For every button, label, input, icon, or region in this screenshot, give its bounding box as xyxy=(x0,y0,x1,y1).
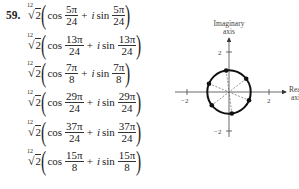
y-tick-neg: −2 xyxy=(214,128,222,136)
root-point xyxy=(207,81,212,86)
root-point xyxy=(247,98,252,103)
y-axis-label-2: axis xyxy=(223,27,235,36)
complex-plane-graph: −2 2 2 −2 Imaginary axis Real axis xyxy=(0,0,299,189)
root-point xyxy=(230,111,235,116)
root-point xyxy=(244,76,249,81)
root-point xyxy=(224,68,229,73)
root-point xyxy=(209,103,214,108)
x-tick-pos: 2 xyxy=(267,97,271,105)
ticks xyxy=(187,52,269,131)
x-axis-label-2: axis xyxy=(291,93,299,102)
y-tick-pos: 2 xyxy=(218,49,222,57)
x-tick-neg: −2 xyxy=(181,97,189,105)
